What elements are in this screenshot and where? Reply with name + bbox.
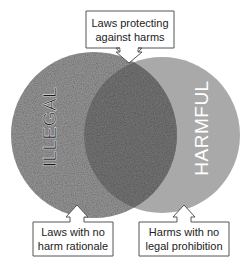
callout-bottom-left-line1: Laws with no <box>41 226 105 238</box>
callout-bottom-right-line2: legal prohibition <box>145 240 222 252</box>
venn-diagram: ILLEGAL HARMFUL Laws protecting against … <box>0 0 251 267</box>
callout-bottom-left-line2: harm rationale <box>38 240 108 252</box>
callout-bottom-right-line1: Harms with no <box>149 226 219 238</box>
harmful-label: HARMFUL <box>191 80 212 175</box>
illegal-label: ILLEGAL <box>39 87 60 168</box>
callout-top-line1: Laws protecting <box>91 17 168 29</box>
callout-top-line2: against harms <box>95 31 165 43</box>
callout-bottom-right: Harms with no legal prohibition <box>139 205 229 256</box>
